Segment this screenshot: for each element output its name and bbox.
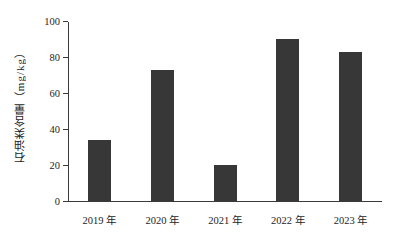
y-axis-tick-label: 40 <box>50 124 61 135</box>
x-axis-tick-label: 2022 年 <box>271 212 305 227</box>
y-axis-tick-mark <box>63 201 68 202</box>
y-axis-line <box>68 22 69 202</box>
y-axis-tick: 40 <box>68 129 69 130</box>
y-axis-title-label: 石油类含量（mg/kg） <box>12 46 28 163</box>
y-axis-tick-label: 60 <box>50 88 61 99</box>
y-axis-tick: 0 <box>68 201 69 202</box>
x-axis-line <box>68 201 382 202</box>
y-axis-tick-mark <box>63 21 68 22</box>
y-axis-tick: 20 <box>68 165 69 166</box>
y-axis-tick: 80 <box>68 57 69 58</box>
bar <box>339 52 362 201</box>
y-axis-tick-label: 20 <box>50 160 61 171</box>
y-axis-tick: 100 <box>68 21 69 22</box>
y-axis-tick-label: 0 <box>55 196 60 207</box>
y-axis-tick: 60 <box>68 93 69 94</box>
y-axis-tick-mark <box>63 57 68 58</box>
bar-chart-figure: 石油类含量（mg/kg） 020406080100 2019 年2020 年20… <box>0 0 404 247</box>
bar <box>151 70 174 201</box>
y-axis-tick-mark <box>63 93 68 94</box>
bar <box>276 39 299 201</box>
y-axis-tick-mark <box>63 165 68 166</box>
y-axis-tick-label: 100 <box>44 16 60 27</box>
plot-area: 020406080100 2019 年2020 年2021 年2022 年202… <box>68 22 382 202</box>
y-axis-tick-mark <box>63 129 68 130</box>
x-axis-tick-label: 2020 年 <box>145 212 179 227</box>
x-axis-tick-label: 2021 年 <box>208 212 242 227</box>
y-axis-tick-label: 80 <box>50 52 61 63</box>
y-axis-title: 石油类含量（mg/kg） <box>8 0 32 210</box>
bar <box>214 165 237 201</box>
bar <box>88 140 111 201</box>
x-axis-tick-label: 2023 年 <box>334 212 368 227</box>
x-axis-tick-label: 2019 年 <box>83 212 117 227</box>
